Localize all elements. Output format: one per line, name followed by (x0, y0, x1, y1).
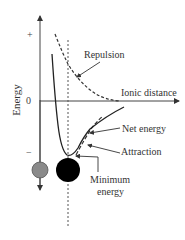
net-energy-label: Net energy (122, 123, 166, 134)
repulsion-label: Repulsion (84, 49, 125, 60)
minimum-energy-label-line2: energy (97, 186, 124, 197)
tick-plus: + (27, 30, 33, 40)
tick-minus: − (26, 148, 32, 158)
repulsion-arrow (77, 62, 100, 77)
net-energy-arrow (90, 128, 120, 133)
net-energy-curve (52, 54, 124, 155)
y-axis-label: Energy (10, 80, 22, 120)
repulsion-curve (55, 34, 120, 101)
x-axis-label: Ionic distance (121, 87, 177, 98)
tick-zero: 0 (26, 96, 31, 106)
small-ion (32, 162, 48, 178)
attraction-label: Attraction (121, 146, 162, 157)
large-ion (56, 158, 80, 182)
attraction-arrow (88, 145, 120, 153)
minimum-energy-label-line1: Minimum (90, 174, 130, 185)
